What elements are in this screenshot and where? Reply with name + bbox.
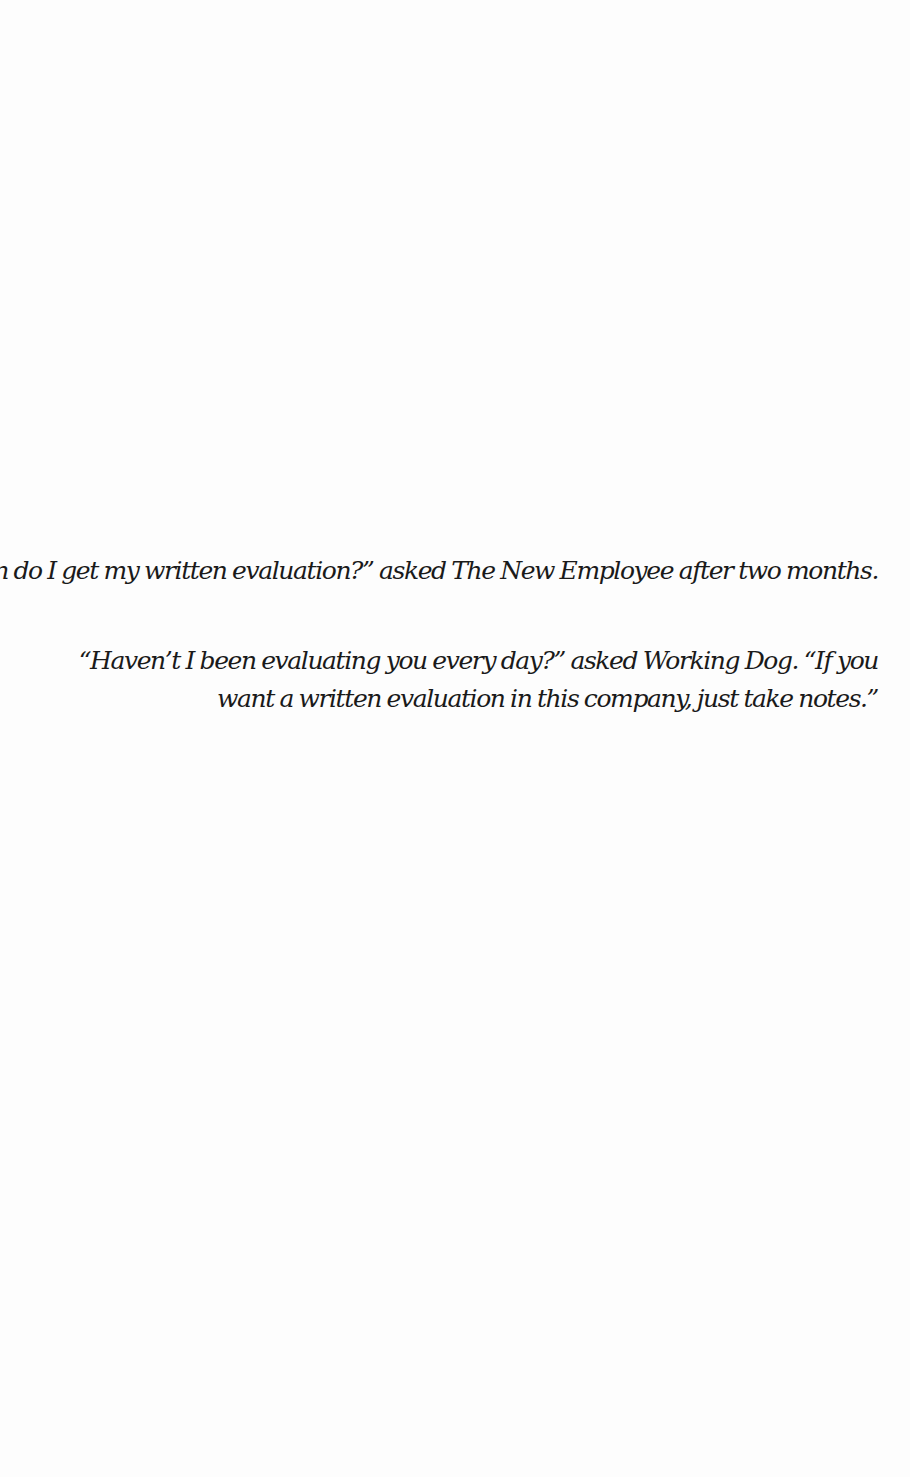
book-page: “When do I get my written evaluation?” a… xyxy=(0,0,910,1477)
paragraph-question: “When do I get my written evaluation?” a… xyxy=(0,552,878,590)
text-line: “When do I get my written evaluation?” a… xyxy=(0,552,878,590)
text-line: want a written evaluation in this compan… xyxy=(79,680,878,718)
text-line: “Haven’t I been evaluating you every day… xyxy=(79,642,878,680)
paragraph-answer: “Haven’t I been evaluating you every day… xyxy=(79,642,878,718)
